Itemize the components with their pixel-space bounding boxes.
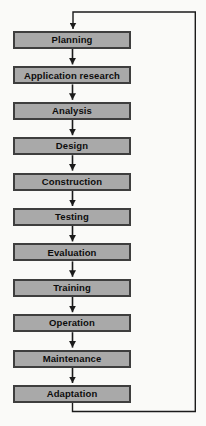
stage-label: Testing — [55, 212, 89, 222]
stage-box-adaptation: Adaptation — [13, 385, 131, 403]
stage-label: Construction — [42, 177, 102, 187]
stage-box-operation: Operation — [13, 314, 131, 332]
stage-box-training: Training — [13, 279, 131, 297]
stage-box-application-research: Application research — [13, 66, 131, 84]
stage-box-evaluation: Evaluation — [13, 243, 131, 261]
stage-box-planning: Planning — [13, 31, 131, 49]
stage-box-maintenance: Maintenance — [13, 350, 131, 368]
stage-label: Analysis — [52, 106, 92, 116]
lifecycle-flowchart: PlanningApplication researchAnalysisDesi… — [0, 0, 206, 426]
stage-box-testing: Testing — [13, 208, 131, 226]
stage-label: Planning — [52, 35, 93, 45]
stage-label: Training — [53, 283, 91, 293]
stage-box-analysis: Analysis — [13, 102, 131, 120]
stage-box-construction: Construction — [13, 173, 131, 191]
stage-box-design: Design — [13, 137, 131, 155]
stage-label: Evaluation — [47, 248, 96, 258]
stage-label: Application research — [24, 71, 120, 81]
stage-label: Operation — [49, 318, 95, 328]
stage-label: Adaptation — [47, 389, 98, 399]
stage-label: Maintenance — [43, 354, 102, 364]
stage-label: Design — [56, 141, 88, 151]
